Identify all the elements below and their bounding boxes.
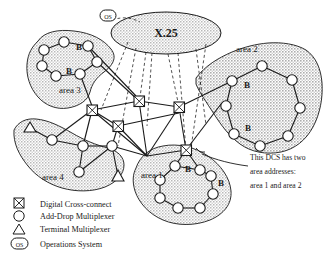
- adm-node: [75, 69, 85, 79]
- adm-node: [229, 129, 239, 139]
- adm-node: [173, 203, 183, 213]
- adm-node: [107, 141, 117, 151]
- area-4-label: area 4: [42, 172, 64, 182]
- adm-node: [227, 76, 237, 86]
- adm-node: [59, 37, 69, 47]
- dcs-node: [134, 96, 145, 107]
- legend-row-2: Terminal Multiplexer: [13, 224, 110, 234]
- triangle-icon: [13, 224, 25, 234]
- network-diagram: OS X.25 area 3 area 2 area 1 area 4 B B …: [0, 0, 328, 260]
- area-3-label: area 3: [59, 85, 81, 95]
- adm-node: [195, 203, 205, 213]
- area-1-label: area 1: [141, 170, 163, 180]
- adm-node: [221, 101, 231, 111]
- os-icon-text: OS: [16, 242, 24, 248]
- os-icon: OS: [11, 238, 28, 249]
- adm-node: [37, 61, 47, 71]
- annotation-line-3: area 1 and area 2: [250, 181, 302, 190]
- os-node: OS: [100, 10, 116, 21]
- area-1-region: [133, 145, 231, 224]
- annotation-line-2: area addresses:: [250, 167, 296, 176]
- legend-label-1: Add-Drop Multiplexer: [40, 212, 115, 221]
- adm-node: [195, 165, 205, 175]
- adm-node: [295, 103, 305, 113]
- node-letter-a3-top: B: [76, 42, 82, 52]
- adm-node: [206, 171, 216, 181]
- dcs-node: [174, 102, 185, 113]
- diagram-canvas: OS X.25 area 3 area 2 area 1 area 4 B B …: [0, 0, 328, 260]
- legend-label-3: Operations System: [40, 240, 103, 249]
- area-2-region: [196, 43, 322, 153]
- adm-node: [155, 193, 165, 203]
- area-2-label: area 2: [236, 44, 258, 54]
- os-node-label: OS: [104, 14, 112, 20]
- adm-node: [51, 71, 61, 81]
- adm-node: [170, 161, 180, 171]
- adm-node: [78, 141, 88, 151]
- node-letter-a1-right: B: [185, 164, 191, 174]
- adm-node: [83, 41, 93, 51]
- adm-node: [208, 189, 218, 199]
- legend: Digital Cross-connect Add-Drop Multiplex…: [11, 198, 115, 249]
- legend-row-1: Add-Drop Multiplexer: [14, 211, 115, 221]
- adm-node: [283, 131, 293, 141]
- adm-node: [92, 57, 102, 67]
- dcs-node: [113, 121, 124, 132]
- adm-node: [39, 45, 49, 55]
- adm-node: [287, 75, 297, 85]
- legend-row-0: Digital Cross-connect: [14, 198, 112, 209]
- legend-row-3: OS Operations System: [11, 238, 103, 249]
- adm-node: [255, 141, 265, 151]
- adm-node: [47, 135, 57, 145]
- node-letter-a3-bottom: B: [66, 66, 72, 76]
- legend-label-2: Terminal Multiplexer: [40, 225, 110, 234]
- node-letter-a2-left: B: [244, 80, 250, 90]
- circle-icon: [14, 211, 24, 221]
- annotation-line-1: This DCS has two: [250, 153, 306, 162]
- node-letter-a2-lower: B: [245, 123, 251, 133]
- cross-connect-icon: [14, 198, 24, 208]
- legend-label-0: Digital Cross-connect: [40, 200, 112, 209]
- x25-cloud-label: X.25: [154, 26, 178, 40]
- dcs-node: [87, 105, 98, 116]
- adm-node: [257, 61, 267, 71]
- dcs-node-multi-area: [181, 145, 192, 156]
- adm-node: [74, 167, 84, 177]
- node-letter-a1-far: B: [218, 178, 224, 188]
